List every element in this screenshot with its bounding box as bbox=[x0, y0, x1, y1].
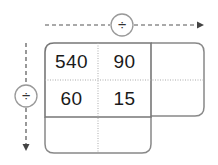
arrow-head-down-icon bbox=[23, 144, 30, 151]
cell-r3-c2[interactable] bbox=[98, 117, 151, 154]
cell-r2-c2: 15 bbox=[98, 80, 151, 117]
arrow-head-right-icon bbox=[197, 22, 204, 29]
horizontal-divide-operator: ÷ bbox=[111, 14, 133, 36]
cell-r2-c3[interactable] bbox=[151, 80, 204, 117]
cell-r1-c3[interactable] bbox=[151, 43, 204, 80]
cell-r2-c1: 60 bbox=[45, 80, 98, 117]
cell-r3-c1[interactable] bbox=[45, 117, 98, 154]
vertical-divide-operator: ÷ bbox=[15, 85, 37, 107]
cell-r1-c2: 90 bbox=[98, 43, 151, 80]
cell-r1-c1: 540 bbox=[45, 43, 98, 80]
